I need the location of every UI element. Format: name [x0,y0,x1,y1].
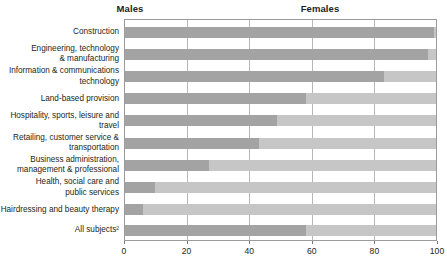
bar-row[interactable] [124,49,437,60]
bar-segment-females[interactable] [384,71,437,82]
bar-row[interactable] [124,115,437,126]
category-label: Hairdressing and beauty therapy [0,205,119,215]
axis-tick-mark [437,241,438,244]
category-label: Business administration, management & pr… [0,155,119,175]
bar-segment-females[interactable] [209,160,437,171]
bar-segment-females[interactable] [143,204,437,215]
bar-segment-males[interactable] [124,225,306,236]
bar-segment-females[interactable] [155,182,437,193]
bar-row[interactable] [124,93,437,104]
axis-tick-label: 0 [104,246,144,256]
bar-row[interactable] [124,27,437,38]
axis-tick-label: 20 [167,246,207,256]
category-label: Health, social care and public services [0,177,119,197]
bar-segment-males[interactable] [124,160,209,171]
category-label: Hospitality, sports, leisure and travel [0,111,119,131]
series-header-females: Females [240,3,400,14]
category-label: Information & communications technology [0,66,119,86]
bar-segment-females[interactable] [277,115,437,126]
axis-tick-label: 60 [292,246,332,256]
axis-tick-mark [374,241,375,244]
series-header-males: Males [0,3,260,14]
bar-segment-males[interactable] [124,71,384,82]
axis-tick-mark [249,241,250,244]
bar-segment-females[interactable] [259,138,437,149]
bar-segment-females[interactable] [306,225,437,236]
bar-row[interactable] [124,71,437,82]
bar-segment-males[interactable] [124,138,259,149]
bar-row[interactable] [124,225,437,236]
bar-segment-males[interactable] [124,204,143,215]
axis-tick-label: 80 [354,246,394,256]
plot-area [124,19,437,241]
axis-tick-label: 40 [229,246,269,256]
bar-row[interactable] [124,138,437,149]
bar-row[interactable] [124,204,437,215]
category-label: All subjects² [0,225,119,235]
axis-tick-mark [187,241,188,244]
bar-segment-males[interactable] [124,182,155,193]
axis-tick-mark [124,241,125,244]
bar-segment-males[interactable] [124,49,428,60]
bar-segment-males[interactable] [124,27,434,38]
bar-segment-males[interactable] [124,115,277,126]
bar-segment-females[interactable] [434,27,437,38]
bar-segment-females[interactable] [306,93,437,104]
category-label: Construction [0,27,119,37]
bar-row[interactable] [124,160,437,171]
category-label: Engineering, technology & manufacturing [0,44,119,64]
stacked-bar-chart: Males Females ConstructionEngineering, t… [0,0,447,265]
bar-segment-males[interactable] [124,93,306,104]
category-label: Land-based provision [0,94,119,104]
bar-row[interactable] [124,182,437,193]
bar-segment-females[interactable] [428,49,437,60]
category-label: Retailing, customer service & transporta… [0,133,119,153]
axis-tick-label: 100 [417,246,447,256]
axis-tick-mark [312,241,313,244]
